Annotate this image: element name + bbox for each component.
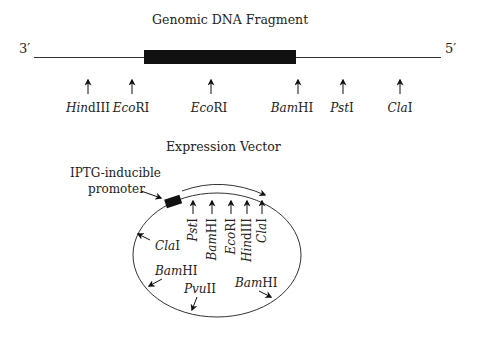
genomic-site-psti: PstI — [329, 80, 354, 115]
promoter-label-line2: promoter — [88, 182, 145, 196]
genomic-sites: HindIII EcoRI EcoRI BamHI PstI ClaI — [65, 80, 413, 115]
svg-text:BamHI: BamHI — [234, 276, 278, 290]
mcs-site-ecori: EcoRI — [224, 201, 238, 256]
genomic-site-bamhi: BamHI — [270, 80, 314, 115]
svg-text:PstI: PstI — [329, 101, 354, 115]
svg-text:EcoRI: EcoRI — [112, 101, 150, 115]
svg-text:EcoRI: EcoRI — [224, 218, 238, 256]
genomic-5prime-label: 5′ — [445, 41, 456, 56]
arrow-icon — [192, 297, 197, 310]
genomic-site-hindiii: HindIII — [65, 80, 110, 115]
svg-text:ClaI: ClaI — [155, 239, 180, 253]
genomic-site-ecori-1: EcoRI — [112, 80, 150, 115]
genomic-3prime-label: 3′ — [19, 41, 30, 56]
diagram-canvas: Genomic DNA Fragment 3′ 5′ HindIII EcoRI… — [0, 0, 487, 337]
arrow-icon — [138, 234, 150, 240]
genomic-site-clai: ClaI — [388, 80, 413, 115]
vector-mcs-sites: PstI BamHI EcoRI HindIII ClaI — [186, 201, 269, 263]
mcs-site-psti: PstI — [186, 201, 200, 242]
vector-title: Expression Vector — [166, 139, 281, 154]
svg-text:EcoRI: EcoRI — [190, 101, 228, 115]
svg-text:BamHI: BamHI — [270, 101, 314, 115]
vector-site-pvuii: PvuII — [183, 282, 216, 310]
promoter-label-line1: IPTG-inducible — [70, 166, 161, 180]
mcs-site-clai: ClaI — [255, 201, 269, 243]
svg-text:HindIII: HindIII — [65, 101, 110, 115]
gene-coding-region — [144, 50, 296, 64]
svg-text:PstI: PstI — [186, 218, 200, 243]
svg-text:ClaI: ClaI — [388, 101, 413, 115]
mcs-site-hindiii: HindIII — [240, 201, 254, 263]
svg-text:BamHI: BamHI — [154, 264, 198, 278]
mcs-site-bamhi: BamHI — [205, 201, 219, 262]
svg-text:HindIII: HindIII — [240, 218, 254, 263]
arrow-icon — [259, 291, 271, 297]
svg-text:PvuII: PvuII — [183, 282, 216, 296]
vector-site-clai: ClaI — [138, 234, 180, 253]
svg-text:ClaI: ClaI — [255, 218, 269, 243]
arrow-icon — [149, 279, 162, 286]
genomic-title: Genomic DNA Fragment — [152, 12, 308, 27]
svg-text:BamHI: BamHI — [205, 218, 219, 262]
promoter-box — [164, 195, 182, 209]
vector-site-bamhi-right: BamHI — [234, 276, 278, 297]
genomic-site-ecori-2: EcoRI — [190, 80, 228, 115]
